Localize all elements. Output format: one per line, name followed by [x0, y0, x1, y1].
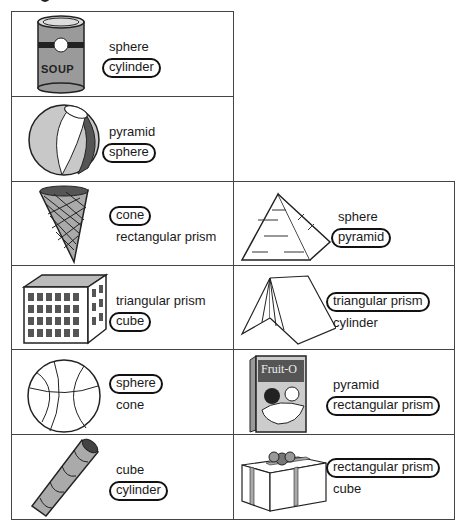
option-pyramid[interactable]: pyramid — [105, 123, 159, 141]
item-cell-pyramid: sphere pyramid — [233, 181, 455, 266]
item-cell-beach-ball: pyramid sphere — [11, 96, 234, 182]
option-cylinder-selected[interactable]: cylinder — [102, 58, 161, 78]
option-cube-selected[interactable]: cube — [109, 312, 151, 332]
answer-options: rectangular prism cube — [329, 457, 440, 499]
option-cone[interactable]: cone — [112, 396, 163, 414]
option-rectangular-prism-selected[interactable]: rectangular prism — [326, 458, 440, 478]
answer-options: cube cylinder — [112, 460, 168, 502]
laundry-basket-icon — [22, 273, 110, 345]
heading-fragment — [40, 0, 50, 2]
option-rectangular-prism[interactable]: rectangular prism — [112, 228, 220, 246]
option-sphere[interactable]: sphere — [334, 208, 391, 226]
option-rectangular-prism-selected[interactable]: rectangular prism — [326, 396, 440, 416]
option-sphere-selected[interactable]: sphere — [109, 374, 163, 394]
answer-options: sphere cone — [112, 373, 163, 415]
item-cell-laundry-basket: triangular prism cube — [11, 265, 234, 350]
item-cell-wafer-roll: cube cylinder — [11, 434, 234, 520]
answer-options: triangular prism cube — [112, 291, 210, 333]
can-label: SOUP — [41, 63, 74, 75]
option-triangular-prism[interactable]: triangular prism — [112, 292, 210, 310]
answer-options: triangular prism cylinder — [329, 291, 430, 333]
option-cube[interactable]: cube — [329, 480, 440, 498]
option-cylinder-selected[interactable]: cylinder — [109, 481, 168, 501]
option-pyramid-selected[interactable]: pyramid — [331, 228, 391, 248]
option-sphere[interactable]: sphere — [105, 38, 161, 56]
answer-options: cone rectangular prism — [112, 205, 220, 247]
answer-options: sphere cylinder — [105, 37, 161, 79]
ice-cream-cone-icon — [36, 184, 92, 264]
basketball-icon — [26, 358, 102, 434]
answer-options: sphere pyramid — [334, 207, 391, 249]
option-cube[interactable]: cube — [112, 461, 168, 479]
answer-options: pyramid sphere — [105, 122, 159, 164]
option-triangular-prism-selected[interactable]: triangular prism — [326, 292, 430, 312]
item-cell-gift-box: rectangular prism cube — [233, 434, 455, 520]
answer-options: pyramid rectangular prism — [329, 375, 440, 417]
item-cell-cereal-box: Fruit-O pyramid rectangular prism — [233, 349, 455, 435]
item-cell-ice-cream-cone: cone rectangular prism — [11, 181, 234, 266]
gift-box-icon — [240, 449, 332, 513]
beach-ball-icon — [26, 102, 102, 178]
option-sphere-selected[interactable]: sphere — [102, 143, 156, 163]
option-cylinder[interactable]: cylinder — [329, 314, 430, 332]
item-cell-soup-can: SOUP sphere cylinder — [11, 11, 234, 97]
cereal-box-label: Fruit-O — [261, 362, 297, 377]
option-cone-selected[interactable]: cone — [109, 206, 151, 226]
option-pyramid[interactable]: pyramid — [329, 376, 440, 394]
soup-can-icon — [34, 14, 90, 94]
item-cell-tent: triangular prism cylinder — [233, 265, 455, 350]
tent-icon — [240, 274, 336, 346]
item-cell-basketball: sphere cone — [11, 349, 234, 435]
pyramid-icon — [238, 190, 334, 262]
wafer-roll-icon — [28, 438, 102, 518]
